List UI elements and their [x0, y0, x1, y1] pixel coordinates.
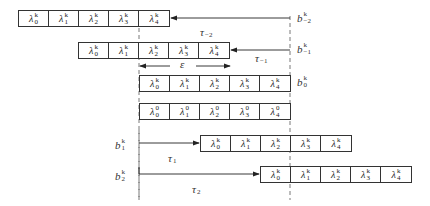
b-minus1-label: bk−1	[297, 42, 311, 56]
symbol-cell: λ01	[170, 104, 200, 119]
symbol-cell: λk0	[201, 136, 231, 151]
row-2: λk0λk1λk2λk3λk4	[260, 166, 412, 183]
symbol-cell: λk1	[109, 43, 139, 58]
symbol-cell: λk4	[139, 11, 169, 26]
symbol-cell: λk0	[140, 76, 170, 91]
symbol-cell: λk4	[321, 136, 351, 151]
symbol-cell: λk1	[170, 76, 200, 91]
tau-2-label: τ 2	[192, 182, 200, 196]
symbol-cell: λk3	[351, 167, 381, 182]
row-1: λk0λk1λk2λk3λk4	[200, 135, 352, 152]
symbol-cell: λ04	[260, 104, 290, 119]
symbol-cell: λk2	[321, 167, 351, 182]
symbol-cell: λ03	[230, 104, 260, 119]
b-1-label: bk1	[115, 138, 125, 152]
symbol-cell: λk3	[291, 136, 321, 151]
symbol-cell: λk0	[19, 11, 49, 26]
symbol-cell: λk4	[199, 43, 229, 58]
tau-minus2-label: τ −2	[200, 25, 212, 39]
symbol-cell: λk4	[381, 167, 411, 182]
symbol-cell: λk3	[169, 43, 199, 58]
symbol-cell: λk3	[109, 11, 139, 26]
symbol-cell: λk0	[79, 43, 109, 58]
symbol-cell: λ00	[140, 104, 170, 119]
symbol-cell: λ02	[200, 104, 230, 119]
symbol-cell: λk2	[200, 76, 230, 91]
symbol-cell: λk3	[230, 76, 260, 91]
symbol-cell: λk2	[139, 43, 169, 58]
tau-minus1-label: τ −1	[255, 51, 267, 65]
symbol-cell: λk1	[231, 136, 261, 151]
row-minus2: λk0λk1λk2λk3λk4	[18, 10, 170, 27]
epsilon-label: ε	[180, 58, 184, 70]
symbol-cell: λk2	[261, 136, 291, 151]
delay-alignment-diagram: λk0λk1λk2λk3λk4λk0λk1λk2λk3λk4λk0λk1λk2λ…	[0, 0, 430, 206]
row-minus1: λk0λk1λk2λk3λk4	[78, 42, 230, 59]
row-0: λk0λk1λk2λk3λk4	[139, 75, 291, 92]
symbol-cell: λk4	[260, 76, 290, 91]
tau-1-label: τ 1	[168, 151, 176, 165]
b-0-label: bk0	[297, 75, 307, 89]
row-reference: λ00λ01λ02λ03λ04	[139, 103, 291, 120]
b-2-label: bk2	[115, 169, 125, 183]
symbol-cell: λk1	[49, 11, 79, 26]
b-minus2-label: bk−2	[297, 11, 311, 25]
symbol-cell: λk0	[261, 167, 291, 182]
symbol-cell: λk2	[79, 11, 109, 26]
symbol-cell: λk1	[291, 167, 321, 182]
